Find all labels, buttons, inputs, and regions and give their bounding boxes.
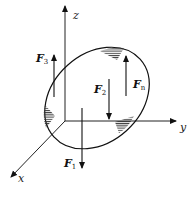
force-Fn-label: Fn <box>132 78 146 92</box>
force-F1-label: F1 <box>63 157 76 171</box>
support-top <box>100 47 124 60</box>
forces: F3 F2 Fn F1 <box>35 52 146 171</box>
x-axis-label: x <box>18 172 25 185</box>
force-diagram: z y x F3 F2 Fn F1 <box>0 0 189 202</box>
y-axis-label: y <box>179 121 187 134</box>
rigid-body-outline <box>24 26 169 169</box>
x-axis <box>11 121 65 177</box>
z-axis-label: z <box>72 9 79 22</box>
force-F2-label: F2 <box>93 83 106 97</box>
support-regions <box>44 47 134 133</box>
support-left <box>44 105 55 128</box>
support-bottom-right <box>115 116 134 133</box>
force-F3-label: F3 <box>35 52 48 66</box>
